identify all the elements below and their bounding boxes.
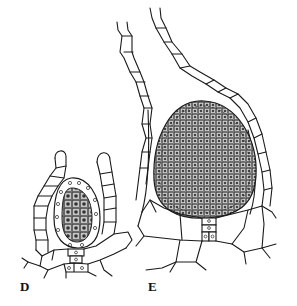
antheridium-d bbox=[54, 178, 100, 248]
panel-e bbox=[117, 8, 276, 272]
stalk-d bbox=[64, 249, 88, 272]
illustration-svg bbox=[0, 0, 297, 306]
antheridium-figure bbox=[0, 0, 297, 306]
antheridium-e bbox=[154, 101, 256, 218]
panel-label-e: E bbox=[148, 279, 157, 295]
stalk-e bbox=[202, 218, 216, 241]
panel-label-d: D bbox=[20, 279, 29, 295]
left-paraphysis bbox=[117, 22, 152, 200]
panel-d bbox=[22, 151, 132, 278]
